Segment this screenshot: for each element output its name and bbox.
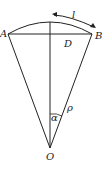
radius-OB [50, 34, 92, 148]
arrowhead-left-icon [52, 12, 57, 17]
label-angle: α [51, 112, 58, 123]
label-arc-length: l [72, 9, 75, 20]
sector-diagram: A B D O l ρ α [0, 0, 108, 173]
label-radius: ρ [66, 102, 73, 113]
label-O: O [46, 151, 54, 162]
label-B: B [94, 30, 102, 41]
label-D: D [63, 38, 72, 49]
label-A: A [0, 28, 7, 39]
radius-OA [8, 34, 50, 148]
